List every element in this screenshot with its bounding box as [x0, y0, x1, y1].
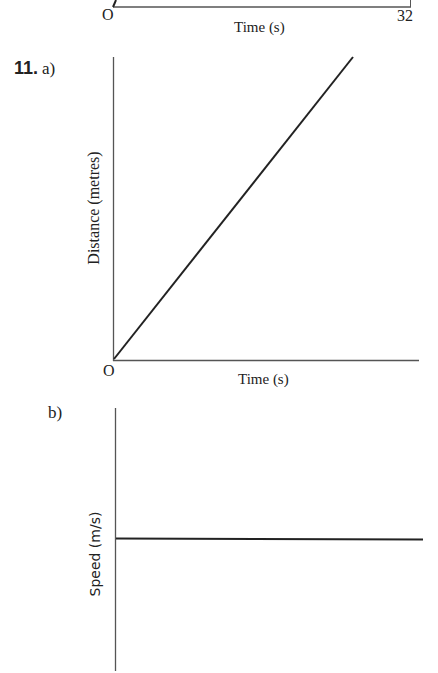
distance-time-line — [114, 57, 353, 359]
speed-time-line — [116, 539, 423, 540]
part-a-label: a) — [42, 59, 55, 78]
previous-x-end-tick-label: 32 — [397, 8, 413, 24]
graphs-canvas — [0, 0, 438, 673]
previous-x-axis-label: Time (s) — [234, 20, 285, 35]
graph-b-y-axis-label: Speed (m/s) — [88, 504, 102, 604]
graph-a — [113, 57, 419, 361]
previous-graph — [113, 0, 411, 7]
question-heading: 11. a) — [14, 58, 55, 79]
graph-a-x-axis-label: Time (s) — [238, 372, 289, 387]
graph-b — [116, 408, 424, 671]
graph-a-y-axis-label: Distance (metres) — [86, 148, 102, 268]
graph-a-origin-label: O — [103, 363, 115, 379]
question-number: 11. — [14, 58, 38, 78]
part-b-label: b) — [48, 403, 62, 423]
previous-origin-label: O — [102, 7, 114, 23]
